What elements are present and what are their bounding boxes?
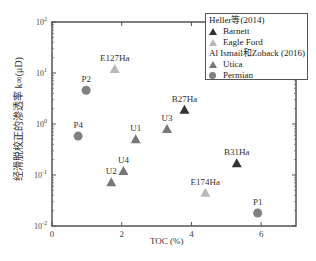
- triangle-marker-icon: [209, 61, 217, 69]
- triangle-marker-icon: [162, 124, 172, 133]
- y-axis-label: 经滑脱校正的渗透率 k∞(μD): [10, 44, 24, 194]
- legend-label: Barnett: [223, 26, 250, 37]
- legend-item-barnett: Barnett: [209, 26, 304, 37]
- circle-marker-icon: [74, 132, 83, 141]
- legend: Heller等(2014) Barnett Eagle Ford Al Isma…: [205, 13, 308, 80]
- legend-label: Eagle Ford: [223, 37, 263, 48]
- point-label: B31Ha: [224, 147, 250, 157]
- svg-text:10-2: 10-2: [34, 220, 47, 231]
- point-label: B27Ha: [172, 94, 198, 104]
- point-label: P4: [73, 120, 83, 130]
- point-label: E174Ha: [191, 177, 221, 187]
- triangle-marker-icon: [209, 28, 217, 36]
- triangle-marker-icon: [118, 166, 128, 175]
- legend-group-alismail: Al Ismail和Zoback (2016): [209, 48, 304, 59]
- triangle-marker-icon: [232, 158, 242, 167]
- point-label: U2: [106, 166, 117, 176]
- point-label: U4: [118, 155, 129, 165]
- triangle-marker-icon: [110, 64, 120, 73]
- legend-label: Utica: [223, 59, 243, 70]
- triangle-marker-icon: [131, 134, 141, 143]
- circle-marker-icon: [253, 208, 262, 217]
- legend-label: Permian: [223, 70, 253, 81]
- svg-text:6: 6: [259, 229, 264, 239]
- svg-text:102: 102: [36, 16, 47, 27]
- legend-group-heller: Heller等(2014): [209, 15, 304, 26]
- legend-item-eagle-ford: Eagle Ford: [209, 37, 304, 48]
- point-label: P2: [81, 74, 91, 84]
- point-label: E127Ha: [100, 53, 130, 63]
- point-label: U1: [130, 123, 141, 133]
- svg-text:0: 0: [50, 229, 55, 239]
- point-label: U3: [162, 113, 173, 123]
- legend-item-permian: Permian: [209, 70, 304, 81]
- svg-text:4: 4: [189, 229, 194, 239]
- svg-text:101: 101: [36, 67, 47, 78]
- svg-text:10-1: 10-1: [34, 169, 47, 180]
- svg-text:100: 100: [36, 118, 47, 129]
- triangle-marker-icon: [209, 39, 217, 47]
- x-axis-label: TOC (%): [150, 236, 184, 246]
- triangle-marker-icon: [106, 177, 116, 186]
- circle-marker-icon: [209, 72, 217, 80]
- legend-item-utica: Utica: [209, 59, 304, 70]
- circle-marker-icon: [82, 86, 91, 95]
- svg-text:2: 2: [119, 229, 124, 239]
- triangle-marker-icon: [179, 105, 189, 114]
- triangle-marker-icon: [200, 188, 210, 197]
- point-label: P1: [253, 197, 263, 207]
